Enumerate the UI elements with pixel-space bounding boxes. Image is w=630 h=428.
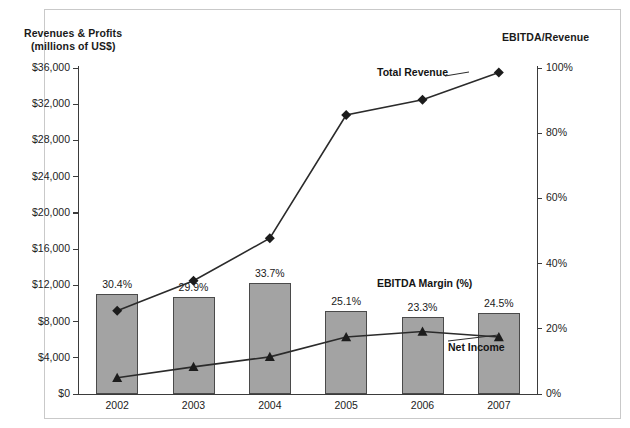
total-revenue-leader <box>445 72 469 76</box>
annotation-ebitda-margin: EBITDA Margin (%) <box>377 277 472 289</box>
total-revenue-marker <box>112 306 122 316</box>
total-revenue-marker <box>265 233 275 243</box>
total-revenue-marker <box>189 276 199 286</box>
annotation-total-revenue: Total Revenue <box>377 66 448 78</box>
total-revenue-marker <box>341 110 351 120</box>
net-income-line <box>117 332 499 378</box>
chart-screenshot: Revenues & Profits (millions of US$) EBI… <box>0 0 630 428</box>
annotation-net-income: Net Income <box>448 341 505 353</box>
total-revenue-line <box>117 73 499 311</box>
line-series-layer <box>0 0 630 428</box>
net-income-markers <box>112 327 504 382</box>
total-revenue-marker <box>494 68 504 78</box>
total-revenue-marker <box>418 95 428 105</box>
